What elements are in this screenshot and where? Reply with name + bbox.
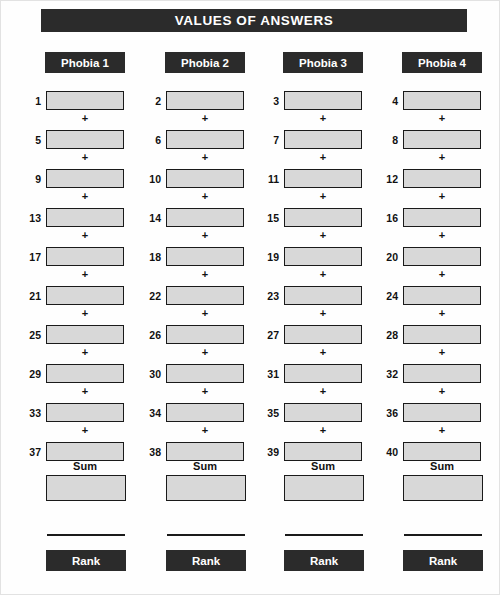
answer-row: 35 — [257, 403, 377, 424]
answer-value-box[interactable] — [46, 130, 124, 149]
item-number: 31 — [257, 367, 279, 381]
answer-value-box[interactable] — [166, 403, 244, 422]
answer-value-box[interactable] — [284, 364, 362, 383]
item-number: 4 — [376, 94, 398, 108]
item-number: 26 — [139, 328, 161, 342]
answer-row: 9 — [19, 169, 139, 190]
item-number: 6 — [139, 133, 161, 147]
answer-value-box[interactable] — [166, 208, 244, 227]
column-phobia-1: Phobia 11+5+9+13+17+21+25+29+33+37SumRan… — [19, 1, 139, 595]
sum-label: Sum — [284, 460, 362, 472]
item-number: 25 — [19, 328, 41, 342]
column-header-phobia-4: Phobia 4 — [402, 52, 482, 73]
answer-value-box[interactable] — [403, 169, 481, 188]
answer-value-box[interactable] — [166, 247, 244, 266]
answer-value-box[interactable] — [284, 325, 362, 344]
answer-value-box[interactable] — [284, 286, 362, 305]
plus-icon: + — [46, 113, 124, 124]
answer-value-box[interactable] — [284, 442, 362, 461]
answer-value-box[interactable] — [46, 286, 124, 305]
answer-value-box[interactable] — [284, 247, 362, 266]
answer-value-box[interactable] — [46, 364, 124, 383]
answer-row: 20 — [376, 247, 496, 268]
answer-value-box[interactable] — [403, 403, 481, 422]
answer-value-box[interactable] — [284, 169, 362, 188]
column-header-phobia-2: Phobia 2 — [165, 52, 245, 73]
answer-value-box[interactable] — [46, 247, 124, 266]
plus-icon: + — [166, 230, 244, 241]
sum-value-box[interactable] — [166, 475, 246, 501]
plus-icon: + — [46, 152, 124, 163]
plus-icon: + — [166, 308, 244, 319]
answer-value-box[interactable] — [46, 169, 124, 188]
answer-value-box[interactable] — [166, 130, 244, 149]
answer-value-box[interactable] — [284, 91, 362, 110]
answer-value-box[interactable] — [46, 208, 124, 227]
plus-icon: + — [403, 230, 481, 241]
plus-icon: + — [403, 386, 481, 397]
answer-value-box[interactable] — [284, 208, 362, 227]
item-number: 32 — [376, 367, 398, 381]
answer-row: 24 — [376, 286, 496, 307]
answer-row: 18 — [139, 247, 259, 268]
item-number: 2 — [139, 94, 161, 108]
item-number: 15 — [257, 211, 279, 225]
plus-icon: + — [166, 386, 244, 397]
plus-icon: + — [284, 308, 362, 319]
item-number: 27 — [257, 328, 279, 342]
plus-icon: + — [46, 386, 124, 397]
answer-value-box[interactable] — [284, 130, 362, 149]
answer-value-box[interactable] — [166, 169, 244, 188]
item-number: 1 — [19, 94, 41, 108]
answer-value-box[interactable] — [403, 91, 481, 110]
item-number: 18 — [139, 250, 161, 264]
plus-icon: + — [166, 269, 244, 280]
answer-value-box[interactable] — [166, 442, 244, 461]
plus-icon: + — [284, 269, 362, 280]
plus-icon: + — [284, 386, 362, 397]
answer-row: 27 — [257, 325, 377, 346]
sum-value-box[interactable] — [46, 475, 126, 501]
plus-icon: + — [403, 425, 481, 436]
answer-value-box[interactable] — [403, 325, 481, 344]
rank-label: Rank — [46, 550, 126, 571]
plus-icon: + — [284, 113, 362, 124]
answer-value-box[interactable] — [166, 91, 244, 110]
answer-row: 33 — [19, 403, 139, 424]
answer-value-box[interactable] — [403, 247, 481, 266]
rank-label: Rank — [166, 550, 246, 571]
answer-value-box[interactable] — [403, 208, 481, 227]
answer-value-box[interactable] — [46, 325, 124, 344]
plus-icon: + — [284, 347, 362, 358]
sum-value-box[interactable] — [284, 475, 364, 501]
item-number: 34 — [139, 406, 161, 420]
sum-label: Sum — [46, 460, 124, 472]
answer-row: 34 — [139, 403, 259, 424]
item-number: 5 — [19, 133, 41, 147]
answer-value-box[interactable] — [166, 325, 244, 344]
plus-icon: + — [166, 191, 244, 202]
answer-value-box[interactable] — [46, 91, 124, 110]
plus-icon: + — [166, 113, 244, 124]
answer-value-box[interactable] — [403, 364, 481, 383]
answer-value-box[interactable] — [403, 442, 481, 461]
answer-row: 2 — [139, 91, 259, 112]
answer-row: 16 — [376, 208, 496, 229]
answer-value-box[interactable] — [284, 403, 362, 422]
answer-value-box[interactable] — [403, 286, 481, 305]
answer-value-box[interactable] — [46, 403, 124, 422]
sum-value-box[interactable] — [403, 475, 483, 501]
answer-value-box[interactable] — [166, 286, 244, 305]
plus-icon: + — [403, 347, 481, 358]
plus-icon: + — [46, 347, 124, 358]
item-number: 20 — [376, 250, 398, 264]
answer-row: 19 — [257, 247, 377, 268]
answer-value-box[interactable] — [46, 442, 124, 461]
item-number: 7 — [257, 133, 279, 147]
item-number: 14 — [139, 211, 161, 225]
item-number: 36 — [376, 406, 398, 420]
plus-icon: + — [403, 269, 481, 280]
answer-value-box[interactable] — [166, 364, 244, 383]
rank-label: Rank — [403, 550, 483, 571]
answer-value-box[interactable] — [403, 130, 481, 149]
